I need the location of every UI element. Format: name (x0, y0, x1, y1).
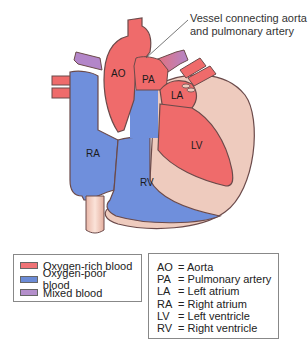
label-lv: LV (191, 140, 203, 151)
label-ao: AO (111, 68, 125, 79)
callout-label: Vessel connecting aorta and pulmonary ar… (190, 12, 307, 38)
abbr-row: RA = Right atrium (157, 298, 270, 310)
callout-line-1: Vessel connecting aorta (190, 12, 307, 25)
swatch-oxygen-poor (20, 276, 38, 283)
abbr-row: LV = Left ventricle (157, 310, 270, 322)
abbr-key: AO (157, 261, 175, 273)
label-rv: RV (140, 177, 154, 188)
abbr-meaning: Left ventricle (188, 310, 250, 322)
abbr-meaning: Right ventricle (188, 322, 258, 334)
abbr-sep: = (178, 261, 184, 273)
swatch-mixed (20, 289, 38, 296)
abbr-meaning: Right atrium (188, 298, 247, 310)
abbreviation-key: AO = Aorta PA = Pulmonary artery LA = Le… (148, 253, 279, 339)
abbr-row: RV = Right ventricle (157, 322, 270, 334)
abbr-key: PA (157, 273, 175, 285)
inferior-vena-cava (86, 196, 104, 233)
abbr-row: PA = Pulmonary artery (157, 273, 270, 285)
abbr-sep: = (178, 285, 184, 297)
abbr-sep: = (178, 310, 184, 322)
color-legend: Oxygen-rich blood Oxygen-poor blood Mixe… (13, 254, 142, 302)
abbr-meaning: Pulmonary artery (188, 273, 272, 285)
abbr-key: RV (157, 322, 175, 334)
abbr-sep: = (178, 273, 184, 285)
abbr-row: LA = Left atrium (157, 285, 270, 297)
callout-line-2: and pulmonary artery (190, 25, 307, 38)
abbr-meaning: Aorta (187, 261, 213, 273)
abbr-key: RA (157, 298, 175, 310)
abbr-sep: = (178, 298, 184, 310)
label-ra: RA (86, 148, 100, 159)
abbr-row: AO = Aorta (157, 261, 270, 273)
abbr-meaning: Left atrium (188, 285, 240, 297)
legend-label: Mixed blood (43, 287, 102, 299)
abbr-sep: = (178, 322, 184, 334)
label-la: LA (171, 90, 183, 101)
left-mixed-vessel (74, 52, 102, 70)
swatch-oxygen-rich (20, 262, 38, 269)
label-pa: PA (142, 74, 155, 85)
abbr-key: LV (157, 310, 175, 322)
abbr-key: LA (157, 285, 175, 297)
heart-diagram: Vessel connecting aorta and pulmonary ar… (0, 0, 308, 240)
legend-item: Oxygen-poor blood (20, 273, 135, 287)
